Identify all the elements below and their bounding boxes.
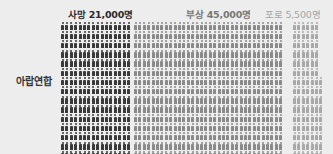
person-icon bbox=[147, 77, 150, 85]
person-icon bbox=[160, 123, 163, 131]
person-icon bbox=[266, 114, 269, 122]
person-icon bbox=[134, 96, 137, 104]
person-icon bbox=[143, 22, 146, 30]
person-icon bbox=[74, 50, 77, 58]
person-icon bbox=[174, 132, 177, 140]
person-icon bbox=[213, 132, 216, 140]
person-icon bbox=[302, 96, 305, 104]
person-icon bbox=[257, 59, 260, 67]
person-icon bbox=[96, 22, 99, 30]
person-icon bbox=[231, 50, 234, 58]
person-icon bbox=[61, 86, 64, 94]
person-icon bbox=[160, 86, 163, 94]
person-icon bbox=[231, 96, 234, 104]
person-icon bbox=[244, 22, 247, 30]
person-icon bbox=[311, 31, 314, 39]
person-icon bbox=[169, 22, 172, 30]
person-icon bbox=[257, 105, 260, 113]
person-icon bbox=[87, 31, 90, 39]
person-icon bbox=[240, 68, 243, 76]
person-icon bbox=[169, 96, 172, 104]
person-icon bbox=[70, 96, 73, 104]
person-icon bbox=[235, 68, 238, 76]
person-icon bbox=[218, 151, 221, 154]
person-icon bbox=[253, 105, 256, 113]
person-icon bbox=[65, 22, 68, 30]
person-icon bbox=[70, 114, 73, 122]
person-icon bbox=[191, 31, 194, 39]
person-icon bbox=[114, 22, 117, 30]
person-icon bbox=[240, 50, 243, 58]
person-icon bbox=[311, 151, 314, 154]
person-icon bbox=[123, 86, 126, 94]
person-icon bbox=[156, 132, 159, 140]
person-icon bbox=[191, 40, 194, 48]
person-icon bbox=[315, 114, 318, 122]
person-icon bbox=[83, 151, 86, 154]
person-icon bbox=[101, 50, 104, 58]
person-icon bbox=[79, 114, 82, 122]
person-icon bbox=[156, 68, 159, 76]
person-icon bbox=[61, 123, 64, 131]
person-icon bbox=[83, 68, 86, 76]
person-icon bbox=[187, 22, 190, 30]
person-icon bbox=[253, 68, 256, 76]
person-icon bbox=[253, 123, 256, 131]
person-icon bbox=[61, 96, 64, 104]
person-icon bbox=[315, 96, 318, 104]
person-icon bbox=[218, 132, 221, 140]
person-icon bbox=[315, 105, 318, 113]
person-icon bbox=[297, 59, 300, 67]
person-icon bbox=[231, 86, 234, 94]
person-icon bbox=[138, 151, 141, 154]
person-icon bbox=[127, 50, 130, 58]
person-icon bbox=[253, 40, 256, 48]
person-icon bbox=[61, 31, 64, 39]
person-icon bbox=[83, 77, 86, 85]
person-icon bbox=[147, 59, 150, 67]
person-icon bbox=[83, 50, 86, 58]
person-icon bbox=[222, 40, 225, 48]
person-icon bbox=[187, 40, 190, 48]
person-icon bbox=[178, 59, 181, 67]
person-icon bbox=[101, 114, 104, 122]
person-icon bbox=[83, 40, 86, 48]
person-icon bbox=[109, 105, 112, 113]
person-icon bbox=[109, 40, 112, 48]
person-icon bbox=[226, 68, 229, 76]
person-icon bbox=[191, 151, 194, 154]
person-icon bbox=[200, 96, 203, 104]
person-icon bbox=[160, 40, 163, 48]
person-icon bbox=[257, 132, 260, 140]
person-icon bbox=[96, 114, 99, 122]
person-icon bbox=[209, 105, 212, 113]
person-icon bbox=[279, 132, 282, 140]
person-icon bbox=[127, 96, 130, 104]
person-icon bbox=[306, 31, 309, 39]
person-icon bbox=[61, 59, 64, 67]
person-icon bbox=[266, 132, 269, 140]
person-icon bbox=[147, 50, 150, 58]
person-icon bbox=[83, 22, 86, 30]
person-icon bbox=[134, 123, 137, 131]
person-icon bbox=[218, 123, 221, 131]
person-icon bbox=[244, 31, 247, 39]
person-icon bbox=[240, 96, 243, 104]
pow-label: 포로 5,500명 bbox=[265, 7, 320, 21]
person-icon bbox=[204, 22, 207, 30]
person-icon bbox=[182, 142, 185, 150]
person-icon bbox=[218, 68, 221, 76]
person-icon bbox=[213, 77, 216, 85]
person-icon bbox=[123, 77, 126, 85]
person-icon bbox=[209, 31, 212, 39]
person-icon bbox=[101, 40, 104, 48]
person-icon bbox=[152, 123, 155, 131]
person-icon bbox=[315, 132, 318, 140]
person-icon bbox=[311, 86, 314, 94]
person-icon bbox=[319, 142, 322, 150]
person-icon bbox=[70, 68, 73, 76]
person-icon bbox=[134, 151, 137, 154]
person-icon bbox=[178, 50, 181, 58]
person-icon bbox=[235, 132, 238, 140]
person-icon bbox=[101, 123, 104, 131]
